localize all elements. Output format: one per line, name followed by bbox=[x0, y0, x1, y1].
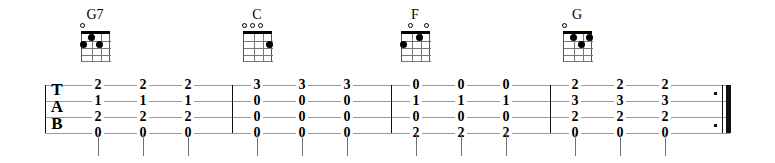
tab-fret-number: 1 bbox=[500, 94, 512, 108]
tab-fret-number: 0 bbox=[341, 94, 353, 108]
tab-fret-number: 2 bbox=[137, 110, 149, 124]
chord-diagram-c: C bbox=[234, 8, 280, 64]
open-string-circle-icon bbox=[408, 23, 413, 28]
tab-fret-number: 1 bbox=[455, 94, 467, 108]
fret-line bbox=[564, 61, 593, 62]
chord-fretboard-grid bbox=[81, 31, 110, 62]
tab-fret-number: 2 bbox=[182, 78, 194, 92]
note-stem bbox=[98, 134, 99, 156]
tab-fret-number: 3 bbox=[569, 94, 581, 108]
fret-line bbox=[402, 61, 431, 62]
fret-line bbox=[564, 48, 593, 49]
fret-line bbox=[244, 61, 273, 62]
tab-fret-number: 3 bbox=[659, 94, 671, 108]
finger-dot bbox=[80, 41, 87, 48]
finger-dot bbox=[266, 41, 273, 48]
tab-fret-number: 2 bbox=[92, 110, 104, 124]
note-stem bbox=[188, 134, 189, 156]
repeat-thick-barline bbox=[726, 85, 731, 133]
chord-diagram-f: F bbox=[392, 8, 438, 64]
tab-fret-number: 0 bbox=[410, 110, 422, 124]
string-line bbox=[101, 34, 102, 62]
fret-line bbox=[244, 48, 273, 49]
chord-fretboard-grid bbox=[243, 31, 272, 62]
finger-dot bbox=[570, 34, 577, 41]
open-string-circle-icon bbox=[258, 23, 263, 28]
tab-fret-number: 0 bbox=[410, 78, 422, 92]
note-stem bbox=[257, 134, 258, 156]
tab-fret-number: 2 bbox=[92, 78, 104, 92]
string-line bbox=[263, 34, 264, 62]
note-stem bbox=[347, 134, 348, 156]
fret-line bbox=[82, 48, 111, 49]
fret-grid bbox=[81, 34, 110, 62]
repeat-dot-upper bbox=[714, 92, 717, 95]
measure-barline bbox=[550, 85, 551, 133]
tab-fret-number: 3 bbox=[296, 78, 308, 92]
measure-barline bbox=[232, 85, 233, 133]
fret-line bbox=[402, 48, 431, 49]
chord-name-label: G bbox=[554, 8, 600, 22]
chord-name-label: C bbox=[234, 8, 280, 22]
tab-fret-number: 2 bbox=[659, 78, 671, 92]
string-line bbox=[412, 34, 413, 62]
open-string-markers bbox=[401, 22, 430, 30]
tab-clef: T A B bbox=[49, 81, 65, 132]
tablature-staff: T A B 2120212021203000300030000102010201… bbox=[45, 85, 730, 133]
open-string-circle-icon bbox=[250, 23, 255, 28]
tab-fret-number: 0 bbox=[455, 110, 467, 124]
note-stem bbox=[302, 134, 303, 156]
tab-fret-number: 2 bbox=[137, 78, 149, 92]
tab-fret-number: 0 bbox=[296, 94, 308, 108]
finger-dot bbox=[400, 41, 407, 48]
tab-fret-number: 2 bbox=[659, 110, 671, 124]
tab-fret-number: 0 bbox=[500, 78, 512, 92]
fret-line bbox=[82, 61, 111, 62]
open-string-markers bbox=[563, 22, 592, 30]
open-string-circle-icon bbox=[242, 23, 247, 28]
chord-diagram-g: G bbox=[554, 8, 600, 64]
chord-diagram-g7: G7 bbox=[72, 8, 118, 64]
open-string-circle-icon bbox=[424, 23, 429, 28]
tab-fret-number: 2 bbox=[569, 110, 581, 124]
repeat-thin-barline bbox=[722, 85, 723, 133]
chord-fretboard-grid bbox=[563, 31, 592, 62]
tab-fret-number: 2 bbox=[569, 78, 581, 92]
tab-fret-number: 1 bbox=[92, 94, 104, 108]
tab-fret-number: 0 bbox=[251, 110, 263, 124]
start-barline bbox=[45, 85, 46, 133]
tab-fret-number: 1 bbox=[182, 94, 194, 108]
note-stem bbox=[416, 134, 417, 156]
open-string-markers bbox=[81, 22, 110, 30]
note-stem bbox=[506, 134, 507, 156]
tab-fret-number: 2 bbox=[614, 110, 626, 124]
tab-fret-number: 0 bbox=[296, 110, 308, 124]
note-stem bbox=[143, 134, 144, 156]
open-string-markers bbox=[243, 22, 272, 30]
finger-dot bbox=[586, 34, 593, 41]
note-stem bbox=[461, 134, 462, 156]
tab-fret-number: 0 bbox=[455, 78, 467, 92]
tab-fret-number: 1 bbox=[137, 94, 149, 108]
fret-line bbox=[244, 55, 273, 56]
tab-fret-number: 3 bbox=[341, 78, 353, 92]
fret-grid bbox=[243, 34, 272, 62]
tab-fret-number: 1 bbox=[410, 94, 422, 108]
tab-fret-number: 2 bbox=[614, 78, 626, 92]
tab-fret-number: 0 bbox=[341, 110, 353, 124]
string-line bbox=[254, 34, 255, 62]
tab-clef-letter-a: A bbox=[49, 98, 65, 115]
tab-clef-letter-t: T bbox=[49, 81, 65, 98]
chord-name-label: G7 bbox=[72, 8, 118, 22]
chord-name-label: F bbox=[392, 8, 438, 22]
tab-clef-letter-b: B bbox=[49, 115, 65, 132]
note-stem bbox=[575, 134, 576, 156]
measure-barline bbox=[391, 85, 392, 133]
note-stem bbox=[620, 134, 621, 156]
string-line bbox=[583, 34, 584, 62]
note-stem bbox=[665, 134, 666, 156]
repeat-dot-lower bbox=[714, 124, 717, 127]
tab-fret-number: 0 bbox=[251, 94, 263, 108]
fret-line bbox=[82, 55, 111, 56]
open-string-circle-icon bbox=[562, 23, 567, 28]
